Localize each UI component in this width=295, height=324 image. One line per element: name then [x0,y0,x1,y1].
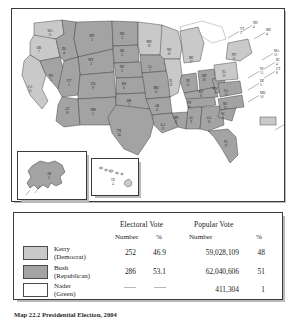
kerry-electoral-number: 252 [110,248,136,257]
nader-popular-number: 411,304 [177,285,239,294]
candidate-name: Bush [54,264,68,271]
nader-popular-pct: 1 [245,285,265,294]
dc-marker-box [260,117,276,125]
svg-text:34: 34 [117,133,121,137]
svg-text:10: 10 [65,111,69,115]
svg-text:27: 27 [224,144,228,148]
nader-electoral-number: —— [110,284,136,290]
candidate-party: (Democrat) [54,253,86,260]
svg-text:3: 3 [260,83,262,87]
svg-text:31: 31 [232,57,236,61]
callout-dc: DC3 [275,119,284,130]
swatch-nader [23,283,48,297]
candidate-party: (Green) [54,290,75,297]
bush-electoral-pct: 53.1 [140,267,166,276]
map-states-layer [22,20,252,163]
state-fl [208,129,238,163]
state-sd [113,45,139,63]
state-label-il: IL21 [169,79,173,87]
subheader-popular-number: Number [189,233,212,241]
bush-popular-number: 62,040,606 [177,267,239,276]
callout-me: ME4 [254,28,271,39]
callout-nj: NJ15 [248,67,264,78]
subheader-popular-pct: % [256,233,262,241]
callout-de: DE3 [248,79,264,90]
figure-electoral-map-2004: WA11OR7CA55NV5ID4MT3WY3UT5CO9AZ10NM5ND3S… [0,0,295,324]
subheader-electoral-pct: % [156,233,162,241]
svg-text:4: 4 [112,182,114,186]
hawaii-inset: HI 4 [91,158,139,196]
header-popular-vote: Popular Vote [194,220,233,229]
state-ks [116,77,146,94]
svg-text:55: 55 [28,89,32,93]
state-pa [214,62,238,81]
legend-candidate-kerry: Kerry (Democrat) [54,245,86,260]
state-or [30,35,60,61]
subheader-electoral-number: Number [115,233,138,241]
svg-text:20: 20 [202,78,206,82]
svg-text:15: 15 [260,71,264,75]
svg-text:13: 13 [224,93,228,97]
state-ny [226,39,252,61]
svg-text:12: 12 [274,53,278,57]
svg-text:15: 15 [207,120,211,124]
swatch-bush [23,265,48,279]
state-nd [112,21,138,46]
svg-text:21: 21 [222,74,226,78]
svg-text:11: 11 [155,90,158,94]
svg-text:10: 10 [147,44,151,48]
state-label-mi: MI17 [189,56,193,64]
svg-text:15: 15 [223,106,227,110]
legend-candidate-bush: Bush (Republican) [54,264,90,279]
state-wi [160,25,182,59]
kerry-popular-number: 59,028,109 [177,248,239,257]
callout-vt: VT3 [228,27,244,38]
svg-text:4: 4 [276,62,278,66]
state-tx [108,105,154,155]
svg-text:10: 10 [260,95,264,99]
candidate-name: Kerry [54,245,70,252]
svg-text:10: 10 [167,52,171,56]
state-label-wi: WI10 [167,48,171,56]
bush-electoral-number: 286 [110,267,136,276]
svg-text:8: 8 [276,71,278,75]
legend-candidate-nader: Nader (Green) [54,282,75,297]
header-electoral-vote: Electoral Vote [120,220,163,229]
figure-caption: Map 22.2 Presidential Election, 2004 [14,311,286,323]
alaska-inset-svg: AK 3 [18,152,86,199]
svg-text:4: 4 [266,32,268,36]
svg-text:11: 11 [188,105,191,109]
candidate-party: (Republican) [54,272,90,279]
hawaii-inset-svg: HI 4 [92,159,138,195]
state-ne [114,62,144,78]
candidate-name: Nader [54,282,71,289]
state-mn [138,22,164,55]
swatch-kerry [23,246,48,260]
kerry-popular-pct: 48 [245,248,265,257]
svg-text:11: 11 [187,83,190,87]
nader-electoral-pct: —— [140,284,166,290]
alaska-inset: AK 3 [17,151,87,200]
legend-panel: Electoral Vote Popular Vote Number % Num… [13,212,283,300]
state-va [218,81,242,97]
state-label-az: AZ10 [65,107,69,115]
state-co [78,72,116,99]
bush-popular-pct: 51 [245,267,265,276]
svg-text:21: 21 [169,83,173,87]
callout-ct: CT8 [264,67,280,78]
svg-text:17: 17 [189,60,193,64]
state-ia [140,55,166,73]
kerry-electoral-pct: 46.9 [140,248,166,257]
callout-md: MD10 [248,91,266,102]
svg-text:11: 11 [49,33,52,37]
svg-text:4: 4 [253,25,255,29]
state-label-fl: FL27 [224,140,228,148]
